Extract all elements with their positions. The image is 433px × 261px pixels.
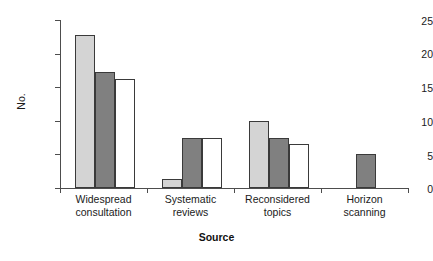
bar-widespread-consultation-series-3 [115,79,135,188]
x-axis-title: Source [0,231,433,243]
y-axis-title: No. [16,78,27,126]
bar-group-systematic-reviews [147,20,234,188]
bar-horizon-scanning-series-2 [356,154,376,188]
bar-chart: No. 25 20 15 10 5 0 [0,0,433,261]
bar-systematic-reviews-series-3 [202,138,222,188]
bar-reconsidered-topics-series-3 [289,144,309,188]
x-category-label-line-2: scanning [305,206,425,219]
bar-group-widespread-consultation [60,20,147,188]
plot-area [60,20,409,188]
bar-systematic-reviews-series-1 [162,179,182,188]
bar-reconsidered-topics-series-1 [249,121,269,188]
x-category-label-line-1: Horizon [305,193,425,206]
bar-widespread-consultation-series-1 [75,35,95,188]
x-category-label-horizon-scanning: Horizon scanning [305,193,425,218]
bar-group-reconsidered-topics [234,20,321,188]
bar-systematic-reviews-series-2 [182,138,202,188]
bar-reconsidered-topics-series-2 [269,138,289,188]
bar-widespread-consultation-series-2 [95,72,115,188]
bar-group-horizon-scanning [321,20,408,188]
